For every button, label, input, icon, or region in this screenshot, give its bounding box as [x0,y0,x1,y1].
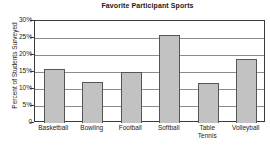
x-axis-tick-label-line: Basketball [34,124,73,132]
y-axis-tick-label: 0 [2,118,32,125]
y-axis-tick-label: 30% [2,16,32,23]
x-axis-tick-label-line: Volleyball [227,124,266,132]
x-axis-tick-label-line: Tennis [188,132,227,140]
y-axis-tick-label: 20% [2,50,32,57]
x-axis-tick-label-line: Football [111,124,150,132]
bar [44,69,65,123]
y-axis-tick-label: 5% [2,101,32,108]
bar [198,83,219,123]
gridline [35,89,264,90]
x-axis-tick-label-line: Bowling [73,124,112,132]
x-axis-tick-label: Softball [150,124,189,132]
bar [159,35,180,123]
x-axis-tick-label: Basketball [34,124,73,132]
x-axis-tick-label: Bowling [73,124,112,132]
gridline [35,106,264,107]
gridline [35,38,264,39]
x-axis-tick-label-line: Table [188,124,227,132]
x-axis-tick-label: TableTennis [188,124,227,139]
gridline [35,55,264,56]
chart-title: Favorite Participant Sports [30,2,265,9]
x-axis-tick-label-line: Softball [150,124,189,132]
bar [82,82,103,123]
bar [236,59,257,123]
bar-chart: Favorite Participant Sports Percent of S… [0,0,270,145]
x-axis-tick-label: Football [111,124,150,132]
y-axis-tick-label: 25% [2,33,32,40]
x-axis-tick-label: Volleyball [227,124,266,132]
y-axis-tick-label: 10% [2,84,32,91]
y-axis-tick-label: 15% [2,67,32,74]
plot-area [34,20,265,122]
gridline [35,72,264,73]
bar [121,72,142,123]
